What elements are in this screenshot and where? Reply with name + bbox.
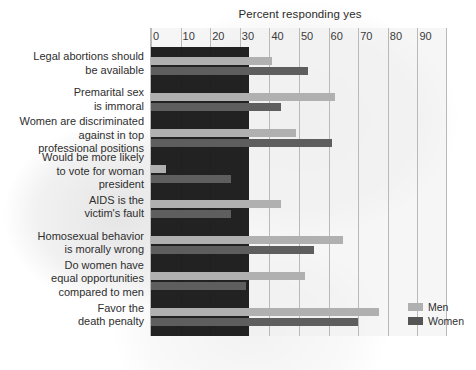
category-label-line: Legal abortions should bbox=[6, 50, 144, 64]
category-label-line: to vote for woman bbox=[6, 165, 144, 179]
category-label-line: compared to men bbox=[6, 286, 144, 300]
chart-legend: Men Women bbox=[408, 300, 464, 328]
bar-women-7 bbox=[151, 318, 358, 326]
bar-men-0 bbox=[151, 57, 272, 65]
category-label-7: Favor thedeath penalty bbox=[6, 302, 144, 329]
category-label-line: death penalty bbox=[6, 315, 144, 329]
category-label-line: is immoral bbox=[6, 100, 144, 114]
bar-women-2 bbox=[151, 139, 332, 147]
category-label-line: Favor the bbox=[6, 302, 144, 316]
legend-label-women: Women bbox=[428, 315, 464, 327]
bar-women-6 bbox=[151, 282, 246, 290]
x-tick-70: 70 bbox=[360, 30, 372, 42]
gridline-70 bbox=[358, 28, 359, 336]
dark-overlay-band bbox=[151, 47, 249, 336]
category-label-line: Women are discriminated bbox=[6, 115, 144, 129]
bar-women-0 bbox=[151, 67, 308, 75]
legend-item-women: Women bbox=[408, 314, 464, 328]
bar-women-4 bbox=[151, 210, 231, 218]
category-label-line: president bbox=[6, 178, 144, 192]
gridline-90 bbox=[417, 28, 418, 336]
category-label-2: Women are discriminatedagainst in toppro… bbox=[6, 115, 144, 156]
category-label-line: be available bbox=[6, 64, 144, 78]
gridline-60 bbox=[329, 28, 330, 336]
bar-women-5 bbox=[151, 246, 314, 254]
chart-title: Percent responding yes bbox=[150, 8, 450, 20]
category-label-6: Do women haveequal opportunitiescompared… bbox=[6, 259, 144, 300]
bar-women-1 bbox=[151, 103, 281, 111]
bar-men-2 bbox=[151, 129, 296, 137]
category-label-line: AIDS is the bbox=[6, 194, 144, 208]
category-label-line: Would be more likely bbox=[6, 151, 144, 165]
men-swatch-icon bbox=[408, 303, 423, 311]
category-label-line: Do women have bbox=[6, 259, 144, 273]
category-label-line: is morally wrong bbox=[6, 243, 144, 257]
gridline-80 bbox=[388, 28, 389, 336]
category-label-line: Premarital sex bbox=[6, 86, 144, 100]
category-label-0: Legal abortions shouldbe available bbox=[6, 50, 144, 77]
x-tick-50: 50 bbox=[301, 30, 313, 42]
legend-label-men: Men bbox=[428, 301, 448, 313]
category-label-line: equal opportunities bbox=[6, 272, 144, 286]
bar-men-6 bbox=[151, 272, 305, 280]
x-tick-20: 20 bbox=[212, 30, 224, 42]
x-tick-90: 90 bbox=[419, 30, 431, 42]
x-tick-40: 40 bbox=[271, 30, 283, 42]
bar-men-4 bbox=[151, 200, 281, 208]
bar-men-5 bbox=[151, 236, 343, 244]
category-label-4: AIDS is thevictim's fault bbox=[6, 194, 144, 221]
category-label-line: victim's fault bbox=[6, 207, 144, 221]
x-tick-80: 80 bbox=[390, 30, 402, 42]
category-label-line: against in top bbox=[6, 129, 144, 143]
category-label-3: Would be more likelyto vote for womanpre… bbox=[6, 151, 144, 192]
category-label-5: Homosexual behavioris morally wrong bbox=[6, 230, 144, 257]
x-tick-30: 30 bbox=[242, 30, 254, 42]
legend-item-men: Men bbox=[408, 300, 464, 314]
gridline-100 bbox=[446, 28, 447, 336]
bar-women-3 bbox=[151, 175, 231, 183]
plot-area bbox=[150, 28, 446, 336]
category-label-1: Premarital sexis immoral bbox=[6, 86, 144, 113]
x-tick-60: 60 bbox=[331, 30, 343, 42]
women-swatch-icon bbox=[408, 317, 423, 325]
category-label-line: Homosexual behavior bbox=[6, 230, 144, 244]
bar-chart: Percent responding yes 01020304050607080… bbox=[0, 0, 476, 370]
bar-men-1 bbox=[151, 93, 335, 101]
x-tick-0: 0 bbox=[153, 30, 159, 42]
bar-men-7 bbox=[151, 308, 379, 316]
x-tick-10: 10 bbox=[183, 30, 195, 42]
bar-men-3 bbox=[151, 165, 166, 173]
